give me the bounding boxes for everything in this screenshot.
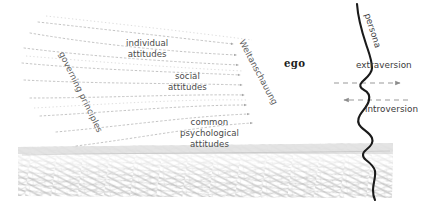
label-common-psychological-attitudes-line1: common	[180, 117, 239, 128]
label-social-attitudes-line1: social	[168, 71, 207, 82]
label-extraversion: extraversion	[356, 60, 412, 71]
label-individual-attitudes-line1: individual	[126, 38, 168, 49]
jung-psyche-diagram: individual attitudes social attitudes co…	[0, 0, 430, 214]
label-common-psychological-attitudes-line2: psychological	[180, 128, 239, 139]
label-social-attitudes: social attitudes	[168, 71, 207, 93]
label-social-attitudes-line2: attitudes	[168, 82, 207, 93]
label-common-psychological-attitudes: common psychological attitudes	[180, 117, 239, 150]
label-ego: ego	[284, 57, 305, 70]
label-introversion: introversion	[365, 104, 418, 115]
label-common-psychological-attitudes-line3: attitudes	[180, 139, 239, 150]
label-individual-attitudes: individual attitudes	[126, 38, 168, 60]
label-individual-attitudes-line2: attitudes	[126, 49, 168, 60]
